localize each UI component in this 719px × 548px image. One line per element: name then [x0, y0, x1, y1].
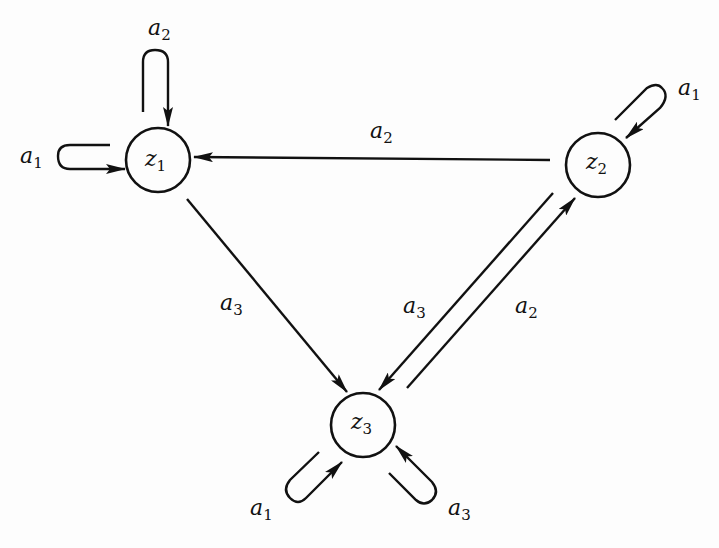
edge-label: a2 [370, 118, 393, 147]
edge-z1-z3-a3: a3 [187, 199, 347, 392]
self-loop-arrow-icon [143, 50, 168, 126]
state-diagram: a2 a1 a1 a1 a3 a2 a3 a3 a2 z1 [0, 0, 719, 548]
edge-label: a3 [220, 290, 243, 319]
arrow-icon [194, 157, 550, 160]
edge-label: a3 [403, 293, 426, 322]
arrow-icon [187, 199, 347, 392]
edge-label: a3 [448, 495, 471, 524]
edge-z3-z3-a1: a1 [250, 452, 342, 524]
self-loop-arrow-icon [58, 145, 125, 169]
edge-z1-z1-a2: a2 [143, 15, 171, 126]
edge-label: a1 [250, 495, 273, 524]
node-z2: z2 [566, 133, 630, 197]
edge-label: a1 [20, 143, 43, 172]
edge-label: a1 [678, 75, 701, 104]
node-z1: z1 [126, 128, 190, 192]
edge-z2-z1-a2: a2 [194, 118, 550, 160]
self-loop-arrow-icon [389, 446, 436, 504]
self-loop-arrow-icon [615, 85, 666, 138]
arrow-icon [407, 198, 575, 388]
edge-z2-z2-a1: a1 [615, 75, 701, 138]
node-z3: z3 [331, 393, 395, 457]
self-loop-arrow-icon [286, 452, 342, 502]
edge-label: a2 [148, 15, 171, 44]
edge-z3-z3-a3: a3 [389, 446, 471, 524]
arrow-icon [379, 193, 553, 390]
edge-label: a2 [515, 293, 538, 322]
edge-z2-z3-a3: a3 [379, 193, 553, 390]
edge-z3-z2-a2: a2 [407, 198, 575, 388]
edge-z1-z1-a1: a1 [20, 143, 125, 172]
